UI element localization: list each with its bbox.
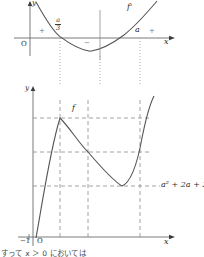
minimum-value-label: a² + 2a + 3	[161, 181, 204, 189]
lower-y-axis-label: y	[25, 85, 29, 92]
sign-minus-middle: −	[84, 40, 90, 47]
upper-x-axis-label: x	[164, 38, 169, 46]
lower-origin-label: O	[37, 238, 43, 245]
root-a-over-3-denominator: 3	[55, 25, 61, 32]
root-a-over-3-label: a 3	[55, 16, 61, 32]
function-curve-label: f	[72, 104, 75, 112]
upper-graph-group	[14, 1, 175, 84]
sign-plus-right: +	[149, 28, 155, 35]
lower-graph-group	[18, 86, 175, 246]
upper-x-axis-arrow	[169, 36, 175, 41]
function-curve	[36, 96, 154, 238]
lower-x-axis-arrow	[169, 235, 175, 240]
figure-canvas	[0, 0, 204, 257]
derivative-curve-label: f'	[127, 3, 132, 11]
footer-note: すって x ＞ 0 においては	[1, 247, 86, 257]
upper-origin-label: O	[21, 41, 27, 48]
root-a-label: a	[135, 26, 140, 34]
sign-plus-left: +	[39, 28, 45, 35]
lower-x-axis-label: x	[164, 238, 169, 246]
math-figure: y x O f' a 3 a + − + y x O −1 f a² + 2a …	[0, 0, 204, 257]
upper-y-axis-label: y	[32, 0, 36, 7]
lower-minus-one-label: −1	[20, 238, 30, 245]
lower-y-axis-arrow	[31, 86, 36, 91]
